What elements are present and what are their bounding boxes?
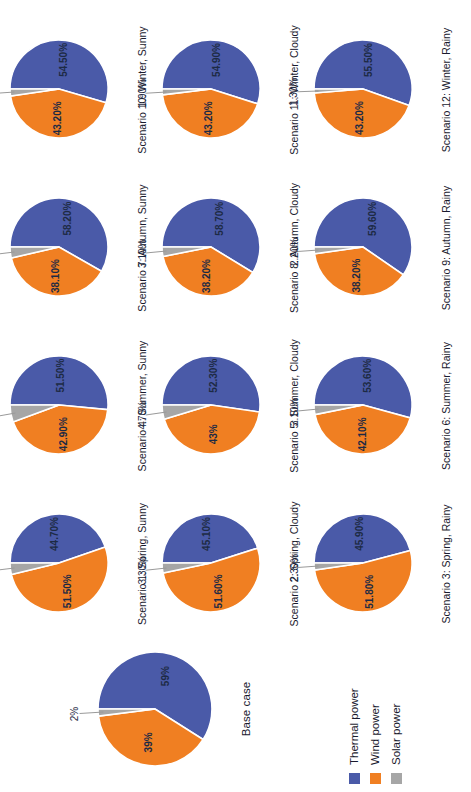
base-case-panel: 59%39%2% Base case [90, 634, 390, 784]
slice-value-label: 55.50% [363, 43, 374, 77]
slice-value-label: 59% [159, 666, 170, 686]
base-case-caption: Base case [240, 634, 252, 784]
slice-value-label: 2.30% [288, 554, 299, 582]
slice-value-label: 51.80% [363, 575, 374, 609]
scenario-pie: 45.10%51.60%3.30% [162, 514, 260, 612]
scenario-caption: Scenario 12: Winter, Rainy [440, 6, 452, 174]
slice-value-label: 39% [142, 732, 153, 752]
scenario-pie: 52.30%43%4.70% [162, 356, 260, 454]
slice-value-label: 38.10% [49, 259, 60, 293]
slice-value-label: 3.10% [136, 240, 147, 268]
slice-value-label: 4.70% [137, 401, 148, 429]
slice-value-label: 1.90% [136, 79, 147, 107]
slice-value-label: 1.30% [288, 78, 299, 106]
slice-value-label: 45.10% [201, 517, 212, 551]
slice-value-label: 51.50% [62, 574, 73, 608]
legend-swatch-icon [391, 773, 402, 784]
scenario-panel: 59.60%38.20%2.20%Scenario 9: Autumn, Rai… [312, 170, 462, 326]
scenario-pie: 59.60%38.20%2.20% [314, 198, 412, 296]
slice-value-label: 38.20% [200, 259, 211, 293]
slice-value-label: 59.60% [366, 202, 377, 236]
chart-legend: Thermal powerWind powerSolar power [348, 634, 411, 784]
slice-value-label: 54.50% [58, 43, 69, 77]
legend-label: Thermal power [348, 688, 360, 765]
slice-value-label: 45.90% [354, 517, 365, 551]
slice-value-label: 51.60% [213, 574, 224, 608]
legend-item[interactable]: Solar power [390, 634, 402, 784]
pie-slices [98, 652, 212, 766]
slice-value-label: 54.90% [210, 43, 221, 77]
scenario-pie: 44.70%51.50%3.80% [10, 514, 108, 612]
scenario-pie: 45.90%51.80%2.30% [314, 514, 412, 612]
slice-value-label: 51.50% [55, 359, 66, 393]
legend-item[interactable]: Thermal power [348, 634, 360, 784]
slice-value-label: 3.30% [136, 556, 147, 584]
slice-value-label: 42.10% [356, 417, 367, 451]
slice-value-label: 58.70% [213, 202, 224, 236]
scenario-caption: Scenario 3: Spring, Rainy [440, 480, 452, 648]
slice-value-label: 3.10% [288, 398, 299, 426]
legend-label: Solar power [390, 704, 402, 765]
base-case-pie: 59%39%2% [98, 652, 212, 766]
scenario-pie: 54.90%43.20%1.90% [162, 40, 260, 138]
scenario-panel: 55.50%43.20%1.30%Scenario 12: Winter, Ra… [312, 12, 462, 168]
scenario-pie: 58.20%38.10%3.60% [10, 198, 108, 296]
slice-value-label: 42.90% [57, 417, 68, 451]
scenario-panel: 53.60%42.10%3.10%Scenario 6: Summer, Rai… [312, 328, 462, 484]
scenario-grid: 44.70%51.50%3.80%Scenario 1: Spring, Sun… [8, 2, 468, 642]
slice-value-label: 53.60% [361, 359, 372, 393]
slice-value-label: 43.20% [203, 101, 214, 135]
slice-value-label: 2% [69, 707, 80, 721]
scenario-pie: 54.50%43.20%2.30% [10, 40, 108, 138]
figure-rotation-wrapper: 59%39%2% Base case Thermal powerWind pow… [0, 0, 471, 792]
scenario-panel: 51.50%42.90%5.60%Scenario 4: Summer, Sun… [8, 328, 158, 484]
slice-value-label: 43.20% [51, 101, 62, 135]
slice-value-label: 58.20% [61, 202, 72, 236]
legend-label: Wind power [369, 704, 381, 765]
scenario-pie: 55.50%43.20%1.30% [314, 40, 412, 138]
legend-item[interactable]: Wind power [369, 634, 381, 784]
scenario-pie: 51.50%42.90%5.60% [10, 356, 108, 454]
slice-value-label: 43% [208, 424, 219, 444]
slice-value-label: 52.30% [208, 359, 219, 393]
legend-swatch-icon [370, 773, 381, 784]
scenario-pie: 53.60%42.10%3.10% [314, 356, 412, 454]
pie-chart-figure: 59%39%2% Base case Thermal powerWind pow… [0, 0, 471, 792]
pie-slices [314, 198, 412, 296]
scenario-caption: Scenario 9: Autumn, Rainy [440, 164, 452, 332]
scenario-caption: Scenario 6: Summer, Rainy [440, 322, 452, 490]
slice-value-label: 38.20% [351, 259, 362, 293]
scenario-panel: 45.90%51.80%2.30%Scenario 3: Spring, Rai… [312, 486, 462, 642]
slice-value-label: 43.20% [354, 101, 365, 135]
legend-swatch-icon [349, 773, 360, 784]
scenario-pie: 58.70%38.20%3.10% [162, 198, 260, 296]
slice-value-label: 2.20% [288, 238, 299, 266]
slice-value-label: 44.70% [49, 517, 60, 551]
